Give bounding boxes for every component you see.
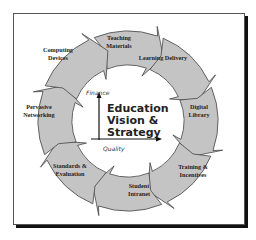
segment-label-student-intranet: StudentIntranet: [128, 182, 151, 197]
segment-label-training-incentives: Training &Incentives: [178, 163, 208, 178]
segment-label-learning-delivery: Learning Delivery: [139, 54, 188, 61]
segment-label-digital-library: DigitalLibrary: [189, 103, 211, 118]
axis-label-quality: Quality: [103, 145, 125, 153]
segment-label-standards-evaluation: Standards &Evaluation: [53, 162, 87, 177]
axis-label-finance: Finance: [86, 89, 110, 96]
cycle-diagram: Finance Quality Education Vision & Strat…: [0, 0, 256, 240]
center-title-line-3: Strategy: [107, 126, 161, 139]
segment-label-pervasive-networking: PervasiveNetworking: [23, 103, 55, 118]
center-title: Education Vision & Strategy: [107, 102, 169, 139]
segment-label-teaching-materials: TeachingMaterials: [106, 34, 132, 49]
